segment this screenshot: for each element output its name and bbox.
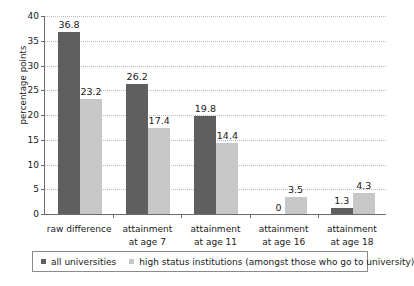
y-tick-label: 40 bbox=[28, 11, 39, 21]
bar-1: 3.5 bbox=[285, 197, 307, 214]
bar-value-label: 36.8 bbox=[49, 19, 89, 30]
x-category-line: at age 18 bbox=[312, 236, 392, 249]
y-tick-label: 30 bbox=[28, 61, 39, 71]
legend-item-1[interactable]: high status institutions (amongst those … bbox=[129, 257, 414, 267]
bar-value-label: 0 bbox=[242, 202, 282, 213]
chart-legend: all universitieshigh status institutions… bbox=[32, 251, 368, 272]
bar-value-label: 26.2 bbox=[117, 71, 157, 82]
x-category-label: attainmentat age 18 bbox=[312, 223, 392, 248]
legend-swatch-icon bbox=[129, 259, 134, 264]
bar-group: 03.5 bbox=[250, 16, 318, 214]
bar-group: 26.217.4 bbox=[113, 16, 181, 214]
bar-0: 1.3 bbox=[331, 208, 353, 214]
y-tick-label: 10 bbox=[28, 160, 39, 170]
x-tick-mark bbox=[113, 214, 114, 218]
y-tick-label: 5 bbox=[33, 184, 39, 194]
y-axis-title: percentage points bbox=[18, 15, 28, 155]
bar-value-label: 19.8 bbox=[185, 103, 225, 114]
bar-0: 36.8 bbox=[58, 32, 80, 214]
y-tick-label: 25 bbox=[28, 85, 39, 95]
bar-group: 19.814.4 bbox=[181, 16, 249, 214]
bar-1: 17.4 bbox=[148, 128, 170, 214]
y-tick-label: 35 bbox=[28, 36, 39, 46]
y-tick-mark bbox=[41, 214, 45, 215]
x-tick-mark bbox=[318, 214, 319, 218]
bar-group: 1.34.3 bbox=[318, 16, 386, 214]
legend-item-0[interactable]: all universities bbox=[41, 257, 116, 267]
bar-1: 4.3 bbox=[353, 193, 375, 214]
plot-area: 4035302520151050 36.823.226.217.419.814.… bbox=[44, 16, 386, 215]
bar-1: 14.4 bbox=[216, 143, 238, 214]
bar-1: 23.2 bbox=[80, 99, 102, 214]
bar-value-label: 14.4 bbox=[207, 130, 247, 141]
x-tick-mark bbox=[250, 214, 251, 218]
bar-group: 36.823.2 bbox=[45, 16, 113, 214]
bar-value-label: 3.5 bbox=[276, 184, 316, 195]
x-category-line: attainment bbox=[312, 223, 392, 236]
bar-value-label: 17.4 bbox=[139, 115, 179, 126]
legend-label: high status institutions (amongst those … bbox=[139, 257, 414, 267]
x-tick-mark bbox=[181, 214, 182, 218]
y-tick-label: 15 bbox=[28, 135, 39, 145]
bar-0: 26.2 bbox=[126, 84, 148, 214]
y-tick-label: 0 bbox=[33, 209, 39, 219]
legend-swatch-icon bbox=[41, 259, 46, 264]
bar-value-label: 23.2 bbox=[71, 86, 111, 97]
bar-value-label: 4.3 bbox=[344, 180, 384, 191]
y-tick-label: 20 bbox=[28, 110, 39, 120]
legend-label: all universities bbox=[51, 257, 116, 267]
